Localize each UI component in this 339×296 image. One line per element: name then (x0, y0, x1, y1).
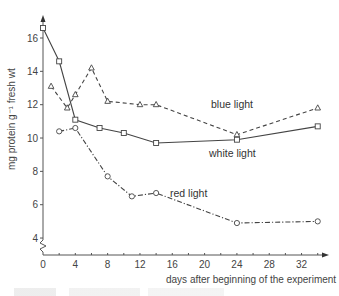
square-marker (234, 137, 239, 142)
square-marker (121, 131, 126, 136)
x-tick-label: 12 (134, 259, 146, 270)
x-tick-label: 24 (231, 259, 243, 270)
circle-marker (315, 219, 320, 224)
series-red-light (57, 125, 321, 225)
circle-marker (129, 194, 134, 199)
square-marker (154, 141, 159, 146)
series-label-white-light: white light (208, 147, 256, 159)
x-tick-label: 16 (167, 259, 179, 270)
y-tick-label: 14 (27, 66, 39, 77)
triangle-marker (48, 83, 54, 88)
line-chart: 04812162024283246810121416 blue light wh… (0, 0, 339, 296)
y-tick-label: 12 (27, 99, 39, 110)
circle-marker (154, 190, 159, 195)
series-label-red-light: red light (170, 187, 207, 199)
y-axis-break-icon (40, 240, 46, 255)
y-tick-label: 10 (27, 133, 39, 144)
series-blue-light (48, 65, 320, 137)
circle-marker (73, 125, 78, 130)
circle-marker (234, 220, 239, 225)
square-marker (315, 124, 320, 129)
triangle-marker (153, 101, 159, 106)
y-axis-title: mg protein g⁻¹ fresh wt (6, 68, 17, 170)
y-tick-label: 6 (32, 199, 38, 210)
x-tick-label: 32 (296, 259, 308, 270)
y-tick-label: 8 (32, 166, 38, 177)
y-tick-label: 16 (27, 33, 39, 44)
x-tick-label: 8 (105, 259, 111, 270)
triangle-marker (89, 65, 95, 70)
square-marker (41, 25, 46, 30)
circle-marker (57, 129, 62, 134)
x-tick-label: 0 (40, 259, 46, 270)
series-line (43, 28, 318, 143)
x-tick-label: 20 (199, 259, 211, 270)
triangle-marker (105, 98, 111, 103)
triangle-marker (315, 105, 321, 110)
x-axis-arrow-icon (322, 253, 329, 258)
x-tick-label: 28 (264, 259, 276, 270)
figure-caption-cutoff (14, 288, 224, 296)
series-label-blue-light: blue light (211, 98, 253, 110)
square-marker (73, 117, 78, 122)
y-tick-label: 4 (32, 233, 38, 244)
square-marker (97, 126, 102, 131)
square-marker (57, 59, 62, 64)
x-tick-label: 4 (73, 259, 79, 270)
circle-marker (105, 174, 110, 179)
x-axis-title: days after beginning of the experiment (166, 274, 336, 285)
series-white-light (41, 25, 321, 145)
series-line (59, 128, 318, 223)
y-axis-arrow-icon (41, 15, 46, 22)
